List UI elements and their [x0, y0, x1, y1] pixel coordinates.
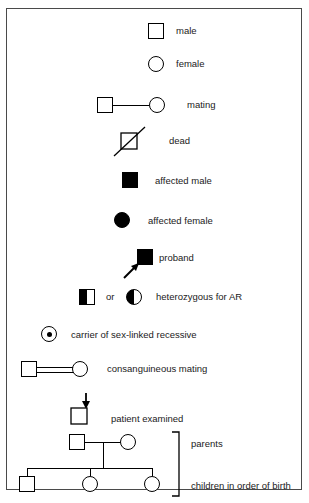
- child-female-symbol-1: [82, 476, 98, 492]
- heterozygous-conjunction: or: [106, 291, 114, 302]
- down-arrow-icon: [82, 393, 90, 409]
- legend-label-mating: mating: [187, 99, 216, 110]
- open-square-symbol: [148, 23, 164, 39]
- consanguineous-square-symbol: [21, 361, 37, 377]
- descent-line: [103, 442, 104, 468]
- legend-label-heterozygous: heterozygous for AR: [156, 291, 242, 302]
- consanguineous-connector-line-top: [37, 367, 73, 368]
- mating-circle-symbol: [149, 97, 165, 113]
- child-drop-line-2: [90, 468, 91, 476]
- patient-examined-symbol: [69, 392, 109, 426]
- mating-connector-line: [113, 105, 149, 106]
- child-male-symbol: [19, 476, 35, 492]
- child-drop-line-3: [152, 468, 153, 476]
- consanguineous-connector-line-bottom: [37, 372, 73, 373]
- generation-bracket: [170, 430, 184, 500]
- pedigree-legend-panel: male female mating dead affected male af…: [6, 8, 302, 490]
- legend-label-female: female: [176, 58, 205, 69]
- parent-female-symbol: [120, 434, 136, 450]
- proband-square-arrow-symbol: [123, 249, 163, 283]
- legend-label-affected-male: affected male: [155, 175, 212, 186]
- parent-male-symbol: [69, 434, 85, 450]
- half-filled-circle-symbol: [126, 289, 142, 305]
- filled-circle-symbol: [114, 212, 130, 228]
- child-female-symbol-2: [144, 476, 160, 492]
- mating-square-symbol: [97, 97, 113, 113]
- legend-label-male: male: [176, 25, 197, 36]
- child-drop-line-1: [27, 468, 28, 476]
- legend-label-dead: dead: [169, 135, 190, 146]
- dead-square-slash-symbol: [111, 126, 157, 160]
- filled-square-symbol: [122, 172, 138, 188]
- consanguineous-circle-symbol: [72, 361, 88, 377]
- legend-label-proband: proband: [159, 252, 194, 263]
- legend-label-affected-female: affected female: [148, 215, 213, 226]
- legend-label-patient-examined: patient examined: [111, 413, 183, 424]
- legend-label-carrier: carrier of sex-linked recessive: [71, 329, 197, 340]
- family-label-children: children in order of birth: [191, 480, 291, 491]
- family-label-parents: parents: [191, 438, 223, 449]
- half-filled-square-symbol: [79, 289, 95, 305]
- proband-arrow-icon: [124, 263, 139, 278]
- circle-with-center-dot-symbol: [41, 326, 57, 342]
- legend-label-consanguineous: consanguineous mating: [107, 363, 207, 374]
- open-circle-symbol: [148, 56, 164, 72]
